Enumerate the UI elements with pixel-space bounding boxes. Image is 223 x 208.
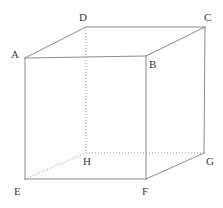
- vertex-label-f: F: [142, 186, 148, 197]
- vertex-label-d: D: [79, 12, 87, 23]
- vertex-label-h: H: [83, 156, 91, 167]
- cube-wireframe: [0, 0, 223, 208]
- vertex-label-a: A: [11, 49, 19, 60]
- vertex-label-c: C: [204, 12, 211, 23]
- edge-C-G: [204, 27, 205, 153]
- edge-D-A: [25, 27, 86, 58]
- edge-B-C: [146, 27, 205, 56]
- vertex-label-g: G: [206, 156, 214, 167]
- vertex-label-b: B: [149, 59, 156, 70]
- edge-E-H: [25, 153, 86, 179]
- vertex-label-e: E: [14, 186, 21, 197]
- cube-diagram: ABCDEFGH: [0, 0, 223, 208]
- edge-F-G: [146, 153, 204, 179]
- cube-edges: [25, 27, 205, 179]
